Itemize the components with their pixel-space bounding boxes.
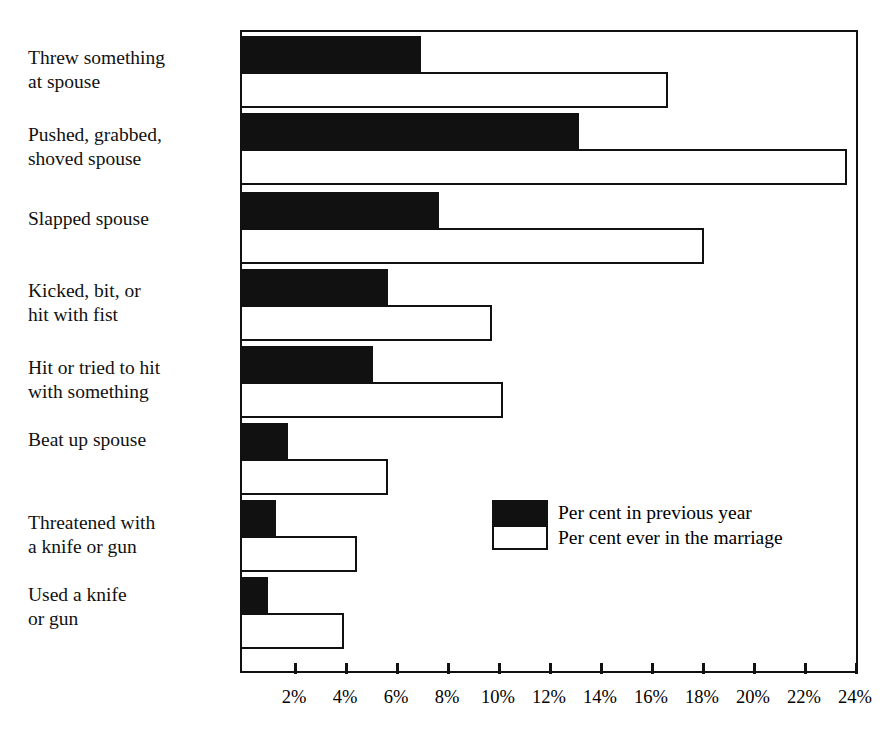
bar-ever-marriage <box>242 613 344 649</box>
bar-prev-year <box>242 36 421 72</box>
bar-prev-year <box>242 500 276 536</box>
x-axis-tick-label: 22% <box>787 687 821 707</box>
bar-ever-marriage <box>242 228 704 264</box>
x-axis-tick <box>549 663 552 674</box>
x-axis-tick <box>294 663 297 674</box>
category-label: Threw something at spouse <box>28 46 234 94</box>
x-axis-tick-label: 2% <box>282 687 307 707</box>
x-axis-tick-label: 6% <box>384 687 409 707</box>
bar-prev-year <box>242 423 288 459</box>
x-axis-tick-label: 16% <box>634 687 668 707</box>
bar-chart: Threw something at spousePushed, grabbed… <box>0 0 895 746</box>
legend-label-prev-year: Per cent in previous year <box>558 501 752 525</box>
x-axis-tick <box>447 663 450 674</box>
x-axis-tick <box>702 663 705 674</box>
bar-prev-year <box>242 577 268 613</box>
x-axis-tick-label: 4% <box>333 687 358 707</box>
bar-ever-marriage <box>242 536 357 572</box>
bar-prev-year <box>242 113 579 149</box>
category-label: Threatened with a knife or gun <box>28 511 234 559</box>
category-label: Used a knife or gun <box>28 583 234 631</box>
x-axis-tick <box>396 663 399 674</box>
bar-prev-year <box>242 192 439 228</box>
x-axis-tick-label: 8% <box>435 687 460 707</box>
x-axis-tick <box>753 663 756 674</box>
x-axis-tick <box>804 663 807 674</box>
bar-ever-marriage <box>242 149 847 185</box>
category-label: Pushed, grabbed, shoved spouse <box>28 123 234 171</box>
category-label: Hit or tried to hit with something <box>28 356 234 404</box>
x-axis-tick <box>651 663 654 674</box>
plot-area <box>240 30 858 673</box>
x-axis: 2%4%6%8%10%12%14%16%18%20%22%24% <box>240 673 858 675</box>
bar-ever-marriage <box>242 305 492 341</box>
category-label: Slapped spouse <box>28 207 234 231</box>
x-axis-tick <box>498 663 501 674</box>
x-axis-tick <box>600 663 603 674</box>
x-axis-tick-label: 10% <box>481 687 515 707</box>
bar-ever-marriage <box>242 72 668 108</box>
legend-swatch-prev-year-icon <box>492 500 548 525</box>
x-axis-tick-label: 20% <box>736 687 770 707</box>
x-axis-tick <box>855 663 858 674</box>
bar-ever-marriage <box>242 382 503 418</box>
x-axis-tick-label: 24% <box>838 687 872 707</box>
x-axis-tick-label: 12% <box>532 687 566 707</box>
legend-item: Per cent in previous year <box>492 500 842 525</box>
x-axis-tick <box>345 663 348 674</box>
category-label: Beat up spouse <box>28 428 234 452</box>
bar-prev-year <box>242 269 388 305</box>
bar-ever-marriage <box>242 459 388 495</box>
legend-item: Per cent ever in the marriage <box>492 525 842 550</box>
legend-swatch-ever-marriage-icon <box>492 525 548 550</box>
chart-legend: Per cent in previous year Per cent ever … <box>492 500 842 550</box>
bar-prev-year <box>242 346 373 382</box>
x-axis-tick-label: 14% <box>583 687 617 707</box>
x-axis-tick-label: 18% <box>685 687 719 707</box>
legend-label-ever-marriage: Per cent ever in the marriage <box>558 526 783 550</box>
category-label: Kicked, bit, or hit with fist <box>28 279 234 327</box>
